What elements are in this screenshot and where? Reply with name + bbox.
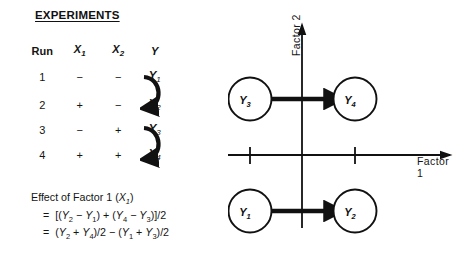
cell-run-3: 3 <box>22 117 61 142</box>
experiments-panel: EXPERIMENTS Run X1 X2 Y 1 − − Y1 2 <box>0 0 228 253</box>
cell-x2-3: + <box>99 117 138 142</box>
formula-line-1: Effect of Factor 1 (X1) <box>31 191 169 209</box>
formula-line-1-variable: X <box>119 191 126 203</box>
cell-x1-2: + <box>61 92 100 117</box>
node-y3[interactable]: Y3 <box>229 78 272 121</box>
page-title: EXPERIMENTS <box>35 9 120 21</box>
effect-formula: Effect of Factor 1 (X1) = [(Y2 − Y1) + (… <box>31 191 169 244</box>
column-header-run: Run <box>22 40 61 62</box>
formula-line-3: = (Y2 + Y4)/2 − (Y1 + Y3)/2 <box>31 226 169 244</box>
node-y2[interactable]: Y2 <box>334 190 377 233</box>
cell-x2-2: − <box>99 92 138 117</box>
column-header-x2-text: X <box>112 43 119 55</box>
formula-line-2: = [(Y2 − Y1) + (Y4 − Y3)]/2 <box>31 209 169 227</box>
cell-x1-4: + <box>61 142 100 167</box>
column-header-x1-subscript: 1 <box>81 50 85 59</box>
node-y1[interactable]: Y1 <box>229 190 272 233</box>
column-header-y: Y <box>138 40 173 62</box>
formula-line-1-prefix: Effect of Factor 1 ( <box>31 191 119 203</box>
column-header-x2-subscript: 2 <box>120 50 124 59</box>
column-header-x1: X1 <box>61 40 100 62</box>
cell-x1-3: − <box>61 117 100 142</box>
cell-x2-1: − <box>99 62 138 92</box>
comparison-arrows-group <box>140 70 188 180</box>
node-y4[interactable]: Y4 <box>334 78 377 121</box>
column-header-x2: X2 <box>99 40 138 62</box>
cell-x2-4: + <box>99 142 138 167</box>
plot-svg: Y3 Y4 Y1 Y2 <box>228 0 458 253</box>
node-y1-circle[interactable] <box>229 190 272 233</box>
node-y2-circle[interactable] <box>334 190 377 233</box>
cell-x1-1: − <box>61 62 100 92</box>
cell-run-2: 2 <box>22 92 61 117</box>
arrow-run3-to-run4-icon <box>144 128 159 159</box>
x-axis-label: Factor 1 <box>417 155 458 179</box>
y-axis-label: Factor 2 <box>290 14 302 56</box>
cell-run-4: 4 <box>22 142 61 167</box>
factor-cube-plot: Y3 Y4 Y1 Y2 Factor 1 Factor 2 <box>228 0 458 253</box>
node-y3-circle[interactable] <box>229 78 272 121</box>
table-header-row: Run X1 X2 Y <box>22 40 172 62</box>
arrow-run1-to-run2-icon <box>144 77 159 108</box>
cell-run-1: 1 <box>22 62 61 92</box>
formula-line-1-suffix: ) <box>130 191 134 203</box>
figure-canvas: EXPERIMENTS Run X1 X2 Y 1 − − Y1 2 <box>0 0 458 253</box>
node-y4-circle[interactable] <box>334 78 377 121</box>
